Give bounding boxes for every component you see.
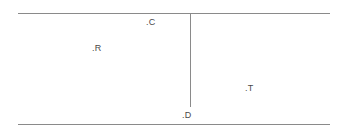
point-label-c: .C	[146, 17, 155, 27]
bottom-horizontal-line	[18, 124, 330, 125]
vertical-divider-line	[190, 13, 191, 107]
point-label-r: .R	[92, 43, 101, 53]
point-label-t: .T	[245, 83, 253, 93]
diagram-canvas: .C .R .T .D	[0, 0, 347, 136]
point-label-d: .D	[182, 110, 191, 120]
top-horizontal-line	[18, 13, 330, 14]
